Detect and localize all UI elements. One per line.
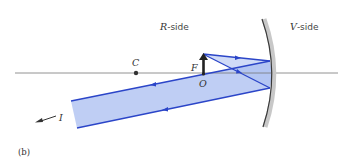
r-side-label: R-side	[159, 21, 189, 32]
panel-label: (b)	[18, 147, 30, 157]
center-of-curvature-point	[134, 71, 138, 75]
v-side-label: V-side	[290, 21, 319, 32]
focal-label: F	[190, 62, 198, 73]
object-base-point	[202, 72, 205, 75]
image-direction-arrow	[41, 116, 56, 121]
concave-mirror-diagram: R-side V-side C F O I (b)	[0, 0, 351, 161]
image-label: I	[58, 112, 63, 123]
image-direction-arrowhead	[35, 118, 43, 123]
center-label: C	[132, 57, 140, 68]
object-label: O	[199, 78, 207, 89]
